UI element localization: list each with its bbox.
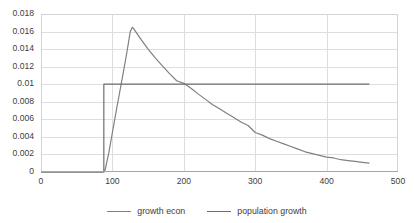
legend-label: growth econ xyxy=(137,206,185,216)
series-line xyxy=(41,84,369,172)
x-axis-tick-labels: 0100200300400500 xyxy=(0,176,414,190)
y-tick-label: 0.016 xyxy=(12,27,34,36)
y-tick-label: 0.01 xyxy=(17,79,34,88)
legend-item[interactable]: population growth xyxy=(207,206,306,216)
plot-border xyxy=(42,15,398,172)
y-tick-label: 0.008 xyxy=(12,97,34,106)
y-tick-label: 0.014 xyxy=(12,44,34,53)
legend-line-swatch xyxy=(107,211,131,212)
y-axis-tick-labels: 00.0020.0040.0060.0080.010.0120.0140.016… xyxy=(0,0,38,190)
x-tick-label: 100 xyxy=(105,176,119,186)
x-tick-label: 400 xyxy=(319,176,333,186)
y-tick-label: 0 xyxy=(29,167,34,176)
y-tick-label: 0.018 xyxy=(12,9,34,18)
y-tick-label: 0.002 xyxy=(12,149,34,158)
chart-legend: growth econpopulation growth xyxy=(0,203,414,219)
legend-label: population growth xyxy=(237,206,306,216)
x-tick-label: 300 xyxy=(248,176,262,186)
y-tick-label: 0.004 xyxy=(12,132,34,141)
plot-area xyxy=(41,14,398,172)
x-tick-label: 0 xyxy=(39,176,44,186)
legend-item[interactable]: growth econ xyxy=(107,206,185,216)
legend-line-swatch xyxy=(207,211,231,212)
series-line xyxy=(41,27,369,172)
plot-svg xyxy=(41,14,398,172)
y-tick-label: 0.006 xyxy=(12,114,34,123)
x-tick-label: 500 xyxy=(391,176,405,186)
data-series-lines xyxy=(41,27,369,172)
chart-title xyxy=(0,0,414,3)
x-tick-label: 200 xyxy=(177,176,191,186)
y-tick-label: 0.012 xyxy=(12,62,34,71)
chart-container: 00.0020.0040.0060.0080.010.0120.0140.016… xyxy=(0,0,414,223)
